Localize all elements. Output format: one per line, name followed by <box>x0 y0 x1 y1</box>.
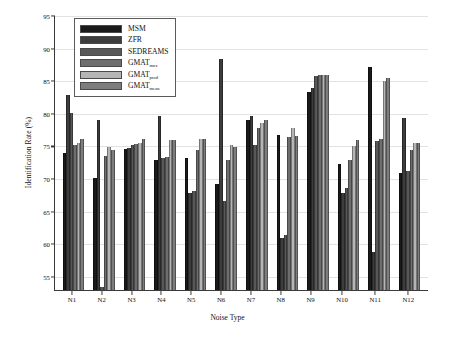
legend-item: GMATmax <box>80 58 169 70</box>
y-tick-label: 90 <box>43 45 55 52</box>
bar <box>97 120 101 290</box>
x-tick-label: N10 <box>336 291 348 311</box>
x-tick-label: N8 <box>277 291 285 311</box>
x-tick-label: N6 <box>217 291 225 311</box>
legend-label: GMATmax <box>128 59 157 67</box>
legend-swatch <box>80 48 122 56</box>
legend-swatch <box>80 59 122 67</box>
x-tick-label: N3 <box>127 291 135 311</box>
x-tick-label: N2 <box>98 291 106 311</box>
bar <box>203 139 207 290</box>
legend-swatch <box>80 36 122 44</box>
legend-swatch <box>80 71 122 79</box>
x-tick-label: N12 <box>402 291 414 311</box>
x-axis-ticks: N1N2N3N4N5N6N7N8N9N10N11N12 <box>54 291 428 311</box>
y-tick-label: 55 <box>43 273 55 280</box>
x-tick-label: N9 <box>306 291 314 311</box>
bar <box>325 75 329 290</box>
bar <box>386 78 390 290</box>
legend-item: MSM <box>80 23 169 35</box>
x-tick-label: N7 <box>247 291 255 311</box>
bar-group <box>307 16 329 290</box>
x-tick-label: N4 <box>157 291 165 311</box>
legend-label: GMATmean <box>128 82 159 90</box>
y-tick-label: 70 <box>43 176 55 183</box>
bar <box>111 150 115 290</box>
x-tick-label: N11 <box>369 291 380 311</box>
bar <box>233 147 237 290</box>
legend-item: GMATprod <box>80 69 169 81</box>
bar-group <box>246 16 268 290</box>
bar <box>417 143 421 290</box>
x-axis-title: Noise Type <box>0 313 455 322</box>
bar <box>80 139 84 290</box>
x-tick-label: N5 <box>187 291 195 311</box>
y-tick-label: 60 <box>43 241 55 248</box>
legend-label: MSM <box>128 25 146 33</box>
legend-swatch <box>80 82 122 90</box>
legend-label: GMATprod <box>128 71 158 79</box>
y-tick-label: 85 <box>43 78 55 85</box>
y-tick-label: 95 <box>43 13 55 20</box>
bar-group <box>185 16 207 290</box>
legend-label: ZFR <box>128 36 142 44</box>
bar <box>356 140 360 290</box>
bar <box>172 140 176 290</box>
legend-item: SEDREAMS <box>80 46 169 58</box>
bar-group <box>368 16 390 290</box>
legend-item: GMATmean <box>80 81 169 93</box>
bar-group <box>338 16 360 290</box>
bar <box>264 120 268 290</box>
legend-item: ZFR <box>80 35 169 47</box>
bar-group <box>399 16 421 290</box>
x-tick-label: N1 <box>68 291 76 311</box>
chart-legend: MSMZFRSEDREAMSGMATmaxGMATprodGMATmean <box>74 18 176 97</box>
legend-swatch <box>80 25 122 33</box>
y-tick-label: 80 <box>43 110 55 117</box>
bar <box>142 139 146 290</box>
y-tick-label: 75 <box>43 143 55 150</box>
y-tick-label: 65 <box>43 208 55 215</box>
bar-group <box>215 16 237 290</box>
bar-group <box>277 16 299 290</box>
y-axis-title: Identification Rate (%) <box>24 73 33 233</box>
legend-label: SEDREAMS <box>128 48 169 56</box>
bar <box>295 136 299 290</box>
bar-chart-figure: Identification Rate (%) 5560657075808590… <box>0 0 455 337</box>
